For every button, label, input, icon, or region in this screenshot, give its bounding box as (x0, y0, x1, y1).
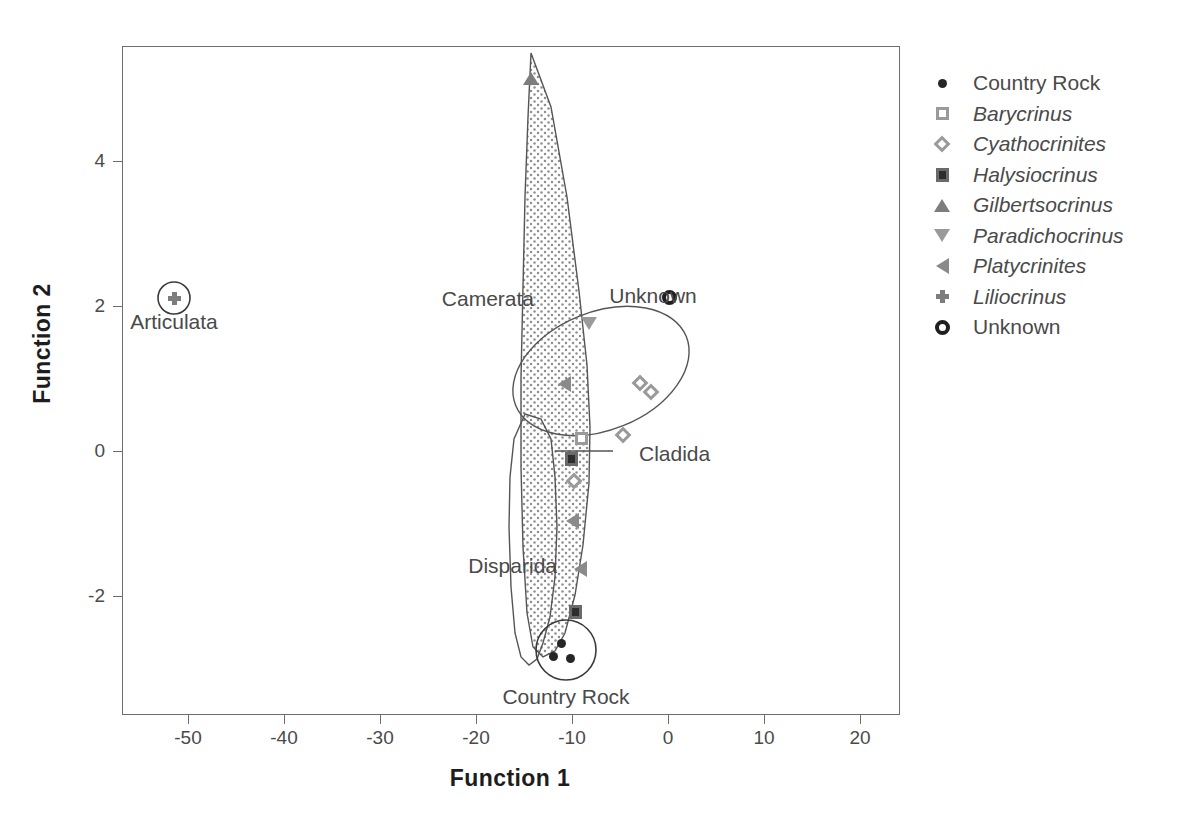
filled-circle-marker (566, 654, 575, 663)
point-platycrinites-2 (566, 513, 579, 529)
legend-item-halysiocrinus[interactable]: Halysiocrinus (925, 160, 1190, 191)
filled-circle-icon (925, 79, 959, 88)
open-diamond-marker (566, 473, 583, 490)
scatter-plot-figure: Camerata Unknown Cladida Disparida Count… (0, 0, 1194, 833)
xtick-mark (476, 715, 477, 724)
ytick-label: -2 (53, 585, 105, 607)
ytick-mark (113, 306, 122, 307)
filled-circle-marker (549, 652, 558, 661)
xtick-mark (284, 715, 285, 724)
point-cyathocrinites-2 (645, 386, 657, 398)
open-square-icon (925, 107, 959, 120)
ytick-mark (113, 596, 122, 597)
legend-label: Liliocrinus (959, 285, 1066, 309)
xtick-label: -40 (254, 727, 314, 749)
triangle-left-icon (925, 258, 959, 274)
y-axis-title: Function 2 (29, 244, 56, 444)
legend-label: Country Rock (959, 71, 1100, 95)
legend-label: Paradichocrinus (959, 224, 1124, 248)
small-cluster-outlines (123, 47, 901, 716)
xtick-label: -50 (158, 727, 218, 749)
point-country-rock-1 (557, 639, 566, 648)
legend-item-platycrinites[interactable]: Platycrinites (925, 251, 1190, 282)
legend-item-paradichocrinus[interactable]: Paradichocrinus (925, 221, 1190, 252)
filled-square-marker (569, 605, 582, 619)
point-platycrinites-3 (574, 561, 587, 577)
triangle-down-icon (925, 229, 959, 242)
legend-item-cyathocrinites[interactable]: Cyathocrinites (925, 129, 1190, 160)
triangle-up-marker (523, 72, 539, 85)
legend-label: Unknown (959, 315, 1061, 339)
triangle-left-marker (558, 376, 571, 392)
triangle-down-marker (581, 317, 597, 330)
x-axis-title: Function 1 (0, 765, 1020, 792)
open-diamond-marker (615, 427, 632, 444)
xtick-label: -10 (542, 727, 602, 749)
xtick-mark (380, 715, 381, 724)
open-square-marker (575, 432, 588, 445)
ytick-label: 4 (53, 150, 105, 172)
legend-label: Barycrinus (959, 102, 1072, 126)
xtick-label: 0 (638, 727, 698, 749)
point-country-rock-2 (549, 652, 558, 661)
xtick-label: 20 (830, 727, 890, 749)
filled-circle-marker (557, 639, 566, 648)
xtick-mark (860, 715, 861, 724)
ytick-mark (113, 161, 122, 162)
ytick-label: 0 (53, 440, 105, 462)
xtick-mark (188, 715, 189, 724)
open-diamond-marker (643, 384, 660, 401)
point-cyathocrinites-3 (617, 429, 629, 441)
legend-item-gilbertsocrinus[interactable]: Gilbertsocrinus (925, 190, 1190, 221)
point-country-rock-3 (566, 654, 575, 663)
legend-label: Cyathocrinites (959, 132, 1106, 156)
plot-frame: Camerata Unknown Cladida Disparida Count… (122, 46, 900, 715)
point-cyathocrinites-4 (568, 475, 580, 487)
point-paradichocrinus-1 (581, 317, 597, 330)
point-liliocrinus-1 (168, 292, 181, 305)
filled-square-icon (925, 168, 959, 182)
label-disparida: Disparida (468, 554, 557, 578)
point-gilbertsocrinus-1 (523, 72, 539, 85)
cross-icon (925, 290, 959, 303)
circle-country-rock (536, 620, 596, 680)
legend-item-country-rock[interactable]: Country Rock (925, 68, 1190, 99)
open-ring-icon (925, 320, 959, 335)
xtick-label: -30 (350, 727, 410, 749)
xtick-mark (572, 715, 573, 724)
ytick-mark (113, 451, 122, 452)
triangle-up-icon (925, 199, 959, 212)
xtick-mark (764, 715, 765, 724)
point-halysiocrinus-2 (569, 605, 582, 619)
label-cladida: Cladida (639, 442, 710, 466)
label-articulata: Articulata (130, 310, 218, 334)
open-diamond-icon (925, 138, 959, 150)
legend-label: Halysiocrinus (959, 163, 1098, 187)
legend-label: Gilbertsocrinus (959, 193, 1113, 217)
xtick-mark (668, 715, 669, 724)
triangle-left-marker (566, 513, 579, 529)
xtick-label: 10 (734, 727, 794, 749)
filled-square-marker (565, 452, 578, 466)
cross-marker (168, 292, 181, 305)
point-barycrinus-1 (575, 432, 588, 445)
xtick-label: -20 (446, 727, 506, 749)
plot-area: Camerata Unknown Cladida Disparida Count… (123, 47, 899, 714)
legend-item-unknown[interactable]: Unknown (925, 312, 1190, 343)
label-camerata: Camerata (442, 287, 534, 311)
point-halysiocrinus-1 (565, 452, 578, 466)
label-unknown: Unknown (609, 284, 697, 308)
legend-label: Platycrinites (959, 254, 1086, 278)
ytick-label: 2 (53, 295, 105, 317)
legend-item-barycrinus[interactable]: Barycrinus (925, 99, 1190, 130)
legend: Country Rock Barycrinus Cyathocrinites H… (925, 68, 1190, 343)
legend-item-liliocrinus[interactable]: Liliocrinus (925, 282, 1190, 313)
label-country-rock: Country Rock (502, 685, 629, 709)
triangle-left-marker (574, 561, 587, 577)
point-platycrinites-1 (558, 376, 571, 392)
